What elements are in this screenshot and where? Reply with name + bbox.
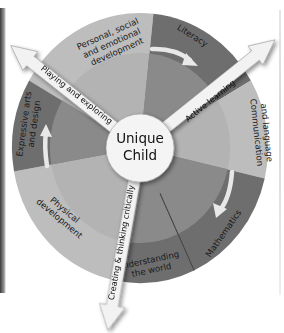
unique-child-diagram: Personal, social and emotional developme…	[0, 0, 284, 333]
center-label-line1: Unique	[116, 130, 164, 146]
expressive-curve-arrow-icon	[45, 132, 47, 166]
center-label-line2: Child	[123, 147, 157, 163]
